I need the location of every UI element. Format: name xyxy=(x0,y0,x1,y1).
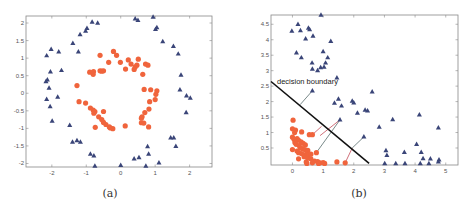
circle-point xyxy=(299,129,304,134)
circle-point xyxy=(106,60,111,65)
x-tick-label: 0 xyxy=(291,168,295,174)
circle-point xyxy=(91,72,96,77)
y-tick-label: -1.5 xyxy=(14,143,25,149)
y-tick-label: 0 xyxy=(21,90,25,96)
circle-point xyxy=(76,99,81,104)
y-tick-label: 2.5 xyxy=(261,83,270,89)
circle-point xyxy=(114,53,119,58)
panel-b-caption: (b) xyxy=(351,187,367,200)
x-tick-label: 3 xyxy=(383,168,387,174)
circle-point xyxy=(123,123,128,128)
y-tick-label: -0.5 xyxy=(14,108,25,114)
x-tick-label: 1 xyxy=(153,170,157,176)
x-tick-label: 4 xyxy=(413,168,417,174)
circle-point xyxy=(334,159,339,164)
y-tick-label: 0.5 xyxy=(261,145,270,151)
circle-point xyxy=(140,72,145,77)
x-tick-label: 2 xyxy=(188,170,192,176)
circle-point xyxy=(322,161,327,166)
circle-point xyxy=(141,121,146,126)
decision-boundary-annotation: decision boundary xyxy=(277,77,338,86)
circle-point xyxy=(290,147,295,152)
x-tick-label: 0 xyxy=(119,170,123,176)
circle-point xyxy=(146,124,151,129)
circle-point xyxy=(145,63,150,68)
circle-point xyxy=(153,92,158,97)
circle-point xyxy=(123,66,128,71)
x-tick-label: 2 xyxy=(352,168,356,174)
y-tick-label: 1 xyxy=(266,130,270,136)
y-tick-label: 2 xyxy=(266,99,270,105)
panel-b-decision-boundary-scatter: 0123450.511.522.533.544.5 decision bound… xyxy=(261,12,458,200)
x-tick-label: 1 xyxy=(321,168,325,174)
y-tick-label: 4.5 xyxy=(261,21,270,27)
y-tick-label: -2 xyxy=(19,160,25,166)
circle-point xyxy=(74,83,79,88)
x-tick-label: -1 xyxy=(84,170,90,176)
circle-point xyxy=(316,161,321,166)
y-tick-label: 3.5 xyxy=(261,52,270,58)
circle-point xyxy=(142,87,147,92)
panel-a-circles-scatter: -2-1012-2-1.5-1-0.500.511.52 (a) xyxy=(14,14,212,200)
circle-point xyxy=(83,100,88,105)
circle-point xyxy=(136,57,141,62)
circle-point xyxy=(148,87,153,92)
circle-point xyxy=(314,150,319,155)
panel-a-caption: (a) xyxy=(102,187,117,200)
circle-point xyxy=(88,105,93,110)
x-tick-label: 5 xyxy=(444,168,448,174)
circle-point xyxy=(147,99,152,104)
circle-point xyxy=(343,160,348,165)
panel-a-plot-frame xyxy=(26,16,212,167)
y-tick-label: 0.5 xyxy=(16,73,25,79)
circle-point xyxy=(290,118,295,123)
circle-point xyxy=(101,68,106,73)
circle-point xyxy=(93,125,98,130)
circle-point xyxy=(96,114,101,119)
circle-point xyxy=(310,132,315,137)
circle-point xyxy=(153,97,158,102)
circle-point xyxy=(97,53,102,58)
figure: -2-1012-2-1.5-1-0.500.511.52 (a) 0123450… xyxy=(0,0,473,211)
y-tick-label: 4 xyxy=(266,37,270,43)
circle-point xyxy=(146,106,151,111)
circle-point xyxy=(139,116,144,121)
circle-point xyxy=(91,111,96,116)
y-tick-label: 1.5 xyxy=(261,114,270,120)
circle-point xyxy=(310,160,315,165)
circle-point xyxy=(132,67,137,72)
circle-point xyxy=(101,109,106,114)
y-tick-label: 2 xyxy=(21,20,25,26)
circle-point xyxy=(118,60,123,65)
y-tick-label: 3 xyxy=(266,68,270,74)
x-tick-label: -2 xyxy=(49,170,55,176)
triangle-point xyxy=(318,12,323,16)
y-tick-label: 1.5 xyxy=(16,38,25,44)
circle-point xyxy=(304,161,309,166)
y-tick-label: 1 xyxy=(21,55,25,61)
circle-point xyxy=(292,130,297,135)
y-tick-label: -1 xyxy=(19,125,25,131)
circle-point xyxy=(296,156,301,161)
